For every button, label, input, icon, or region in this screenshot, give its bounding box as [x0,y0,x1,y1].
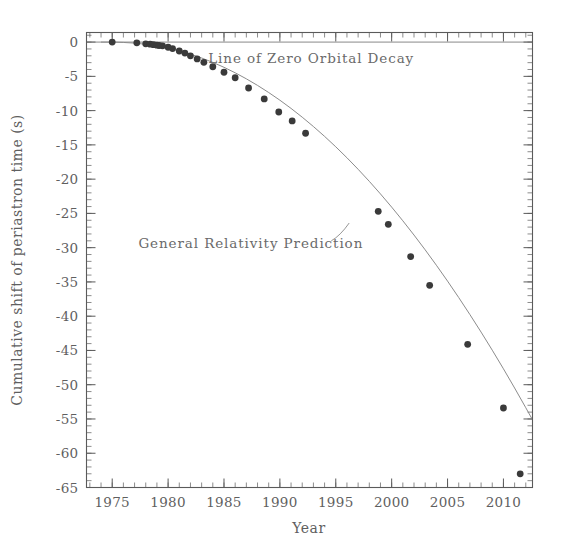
gr-prediction-label: General Relativity Prediction [138,235,363,251]
y-tick-label: 0 [70,34,79,50]
y-tick-label: -55 [56,411,79,427]
y-tick-label: -25 [56,205,79,221]
y-tick-label: -50 [56,377,79,393]
data-point [245,85,252,92]
y-tick-label: -60 [56,445,79,461]
x-tick-label: 1995 [318,494,354,510]
x-tick-label: 1990 [262,494,298,510]
data-point [464,341,471,348]
x-axis-title: Year [291,520,325,536]
series-point-group [109,39,524,478]
chart-figure: 19751980198519901995200020052010 0-5-10-… [0,0,561,553]
y-tick-label: -5 [65,68,79,84]
data-point [261,96,268,103]
data-point [407,253,414,260]
annotation-group: Line of Zero Orbital DecayGeneral Relati… [138,50,414,250]
y-tick-label: -30 [56,240,79,256]
minor-tick-group [87,33,533,488]
plot-frame [87,33,533,488]
y-tick-label: -65 [56,480,79,496]
y-tick-label: -20 [56,171,79,187]
data-point [200,59,207,66]
data-point [109,39,116,46]
x-tick-label: 1975 [94,494,130,510]
y-tick-label: -45 [56,342,79,358]
major-tick-group [87,33,533,488]
y-tick-label: -10 [56,103,79,119]
x-axis-tick-labels: 19751980198519901995200020052010 [94,494,521,510]
data-point [426,282,433,289]
data-point [375,208,382,215]
series-line-group [101,42,532,420]
data-point [385,221,392,228]
x-tick-label: 2005 [430,494,466,510]
y-axis-title: Cumulative shift of periastron time (s) [9,114,25,405]
data-point [194,55,201,62]
orbital-decay-plot: 19751980198519901995200020052010 0-5-10-… [0,0,561,553]
data-point [275,109,282,116]
data-point [133,39,140,46]
x-tick-label: 2010 [486,494,522,510]
y-tick-label: -15 [56,137,79,153]
x-tick-label: 1985 [206,494,242,510]
zero-decay-label: Line of Zero Orbital Decay [208,50,414,66]
y-axis-tick-labels: 0-5-10-15-20-25-30-35-40-45-50-55-60-65 [56,34,79,495]
data-point [187,52,194,59]
y-tick-label: -40 [56,308,79,324]
x-tick-label: 1980 [150,494,186,510]
x-tick-label: 2000 [374,494,410,510]
y-tick-label: -35 [56,274,79,290]
data-point [169,45,176,52]
gr-prediction-curve [101,42,532,420]
data-point [289,118,296,125]
data-point [500,405,507,412]
data-point [232,74,239,81]
data-point [302,130,309,137]
data-point [221,69,228,76]
data-point [517,470,524,477]
